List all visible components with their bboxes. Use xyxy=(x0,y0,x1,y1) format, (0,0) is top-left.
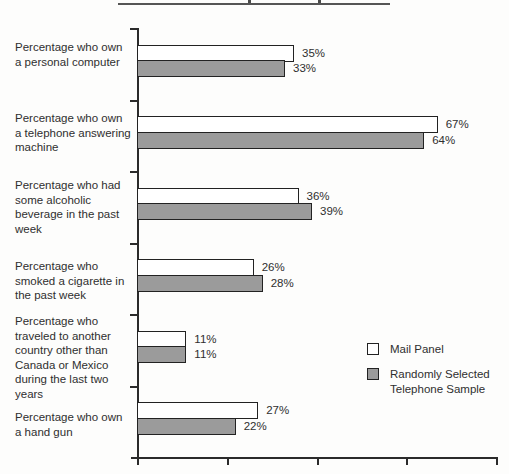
y-axis-tick xyxy=(130,243,138,245)
value-label: 11% xyxy=(194,331,216,348)
bar-mail-panel xyxy=(137,116,438,133)
y-axis-line xyxy=(137,28,139,464)
bar-telephone-sample xyxy=(137,60,285,77)
value-label: 11% xyxy=(194,346,216,363)
legend-swatch-mail-panel xyxy=(367,343,379,355)
bar-telephone-sample xyxy=(137,275,263,292)
value-label: 26% xyxy=(262,259,285,276)
x-axis-tick xyxy=(496,457,498,465)
value-label: 28% xyxy=(271,275,294,292)
legend-label: Randomly Selected Telephone Sample xyxy=(390,367,507,397)
cropped-title-text-remnant xyxy=(248,0,251,3)
bar-telephone-sample xyxy=(137,418,236,435)
cropped-title-text-remnant xyxy=(318,0,321,3)
category-label: Percentage who had some alcoholic bevera… xyxy=(15,178,131,236)
y-axis-tick xyxy=(130,171,138,173)
bar-mail-panel xyxy=(137,402,258,419)
category-label: Percentage who own a personal computer xyxy=(15,40,131,69)
category-label: Percentage who own a hand gun xyxy=(15,410,131,439)
category-label: Percentage who smoked a cigarette in the… xyxy=(15,259,131,303)
category-label: Percentage who own a telephone answering… xyxy=(15,111,131,155)
legend-swatch-telephone-sample xyxy=(367,368,379,380)
bar-mail-panel xyxy=(137,45,294,62)
cropped-title-underline xyxy=(118,3,390,5)
bar-telephone-sample xyxy=(137,203,312,220)
bar-mail-panel xyxy=(137,188,299,205)
bar-mail-panel xyxy=(137,259,254,276)
x-axis-tick xyxy=(227,457,229,465)
x-axis-line xyxy=(131,457,498,459)
bar-mail-panel xyxy=(137,331,186,348)
category-label: Percentage who traveled to another count… xyxy=(15,314,131,401)
y-axis-tick xyxy=(130,314,138,316)
legend-item-mail-panel: Mail Panel xyxy=(367,342,507,357)
bar-telephone-sample xyxy=(137,346,186,363)
value-label: 67% xyxy=(446,116,469,133)
value-label: 36% xyxy=(307,188,330,205)
y-axis-tick xyxy=(130,386,138,388)
legend-item-telephone-sample: Randomly Selected Telephone Sample xyxy=(367,367,507,397)
x-axis-tick xyxy=(317,457,319,465)
value-label: 27% xyxy=(266,402,289,419)
value-label: 35% xyxy=(302,45,325,62)
x-axis-tick xyxy=(406,457,408,465)
bar-chart-figure: Percentage who own a personal computer35… xyxy=(0,0,509,474)
value-label: 22% xyxy=(244,418,267,435)
value-label: 33% xyxy=(293,60,316,77)
y-axis-tick xyxy=(130,100,138,102)
legend-label: Mail Panel xyxy=(390,342,444,357)
x-axis-tick xyxy=(137,457,139,465)
bar-telephone-sample xyxy=(137,132,424,149)
value-label: 64% xyxy=(432,132,455,149)
y-axis-tick xyxy=(130,28,138,30)
value-label: 39% xyxy=(320,203,343,220)
legend: Mail Panel Randomly Selected Telephone S… xyxy=(367,342,507,397)
